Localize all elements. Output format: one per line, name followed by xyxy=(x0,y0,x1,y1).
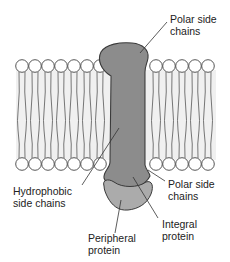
label-peripheral-protein: Peripheral protein xyxy=(88,232,136,256)
label-polar-side-chains-bottom: Polar side chains xyxy=(168,178,215,202)
label-polar-side-chains-top: Polar side chains xyxy=(170,13,217,37)
leader-polar-bottom xyxy=(148,170,165,181)
leader-polar-top xyxy=(140,22,167,53)
label-hydrophobic-side-chains: Hydrophobic side chains xyxy=(13,185,72,209)
label-integral-protein: Integral protein xyxy=(162,218,197,242)
